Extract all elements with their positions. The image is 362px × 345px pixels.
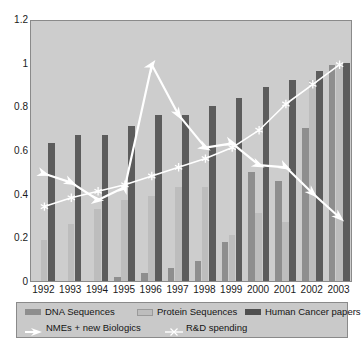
legend-swatch-dna <box>25 309 41 315</box>
legend-label: Human Cancer papers <box>265 304 361 320</box>
y-axis-tick-label: 1 <box>2 59 28 69</box>
line-series-layer <box>31 21 352 282</box>
x-axis-tick-label: 2001 <box>272 283 299 296</box>
line-series-nmes <box>44 65 339 218</box>
chart-legend: DNA SequencesProtein SequencesHuman Canc… <box>16 302 348 338</box>
legend-row-1: DNA SequencesProtein SequencesHuman Canc… <box>17 304 347 320</box>
star-marker-icon <box>165 323 183 333</box>
plot-area <box>30 20 352 282</box>
x-axis-tick-label: 1997 <box>164 283 191 296</box>
x-axis-tick-label: 2002 <box>298 283 325 296</box>
star-marker-icon <box>336 61 343 69</box>
legend-label: R&D spending <box>186 320 247 336</box>
x-axis-tick-label: 1992 <box>30 283 57 296</box>
legend-item[interactable]: DNA Sequences <box>25 304 115 320</box>
x-axis-tick-label: 1995 <box>111 283 138 296</box>
bar-line-combo-chart: 00.20.40.60.811.2 1992199319941995199619… <box>0 0 362 345</box>
y-axis: 00.20.40.60.811.2 <box>0 0 28 345</box>
legend-label: Protein Sequences <box>157 304 237 320</box>
y-axis-tick-label: 0 <box>2 277 28 287</box>
x-axis-tick-label: 1999 <box>218 283 245 296</box>
y-axis-tick-label: 0.8 <box>2 102 28 112</box>
x-axis-tick-label: 1998 <box>191 283 218 296</box>
x-axis-tick-label: 2003 <box>325 283 352 296</box>
legend-item[interactable]: Human Cancer papers <box>245 304 361 320</box>
arrow-marker-icon <box>144 57 159 73</box>
arrow-marker-icon <box>36 167 51 180</box>
x-axis-tick-label: 1993 <box>57 283 84 296</box>
legend-label: DNA Sequences <box>45 304 115 320</box>
legend-swatch-cancer <box>245 309 261 315</box>
star-marker-icon <box>309 80 316 88</box>
legend-swatch-protein <box>137 309 153 316</box>
arrow-marker-icon <box>91 195 105 205</box>
x-axis: 1992199319941995199619971998199920002001… <box>30 283 352 298</box>
x-axis-tick-label: 1994 <box>84 283 111 296</box>
legend-item[interactable]: R&D spending <box>165 320 247 336</box>
legend-item[interactable]: NMEs + new Biologics <box>25 320 141 336</box>
line-series-rnd <box>44 65 339 207</box>
y-axis-tick-label: 0.2 <box>2 233 28 243</box>
y-axis-tick-label: 0.6 <box>2 146 28 156</box>
legend-item[interactable]: Protein Sequences <box>137 304 237 320</box>
legend-label: NMEs + new Biologics <box>46 320 141 336</box>
x-axis-tick-label: 2000 <box>245 283 272 296</box>
y-axis-tick-label: 0.4 <box>2 190 28 200</box>
arrow-marker-icon <box>25 323 43 333</box>
x-axis-tick-label: 1996 <box>137 283 164 296</box>
legend-row-2: NMEs + new BiologicsR&D spending <box>17 320 347 336</box>
arrow-marker-icon <box>63 175 79 189</box>
y-axis-tick-label: 1.2 <box>2 15 28 25</box>
